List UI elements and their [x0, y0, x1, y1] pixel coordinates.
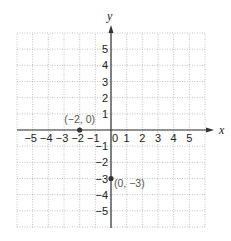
x-tick-label: 0 — [112, 132, 118, 144]
y-tick-label: 4 — [102, 59, 108, 71]
y-tick-label: −3 — [95, 173, 108, 185]
y-tick-label: −2 — [95, 156, 108, 168]
data-point — [108, 176, 113, 181]
y-tick-label: 2 — [102, 92, 108, 104]
x-tick-label: 1 — [124, 132, 130, 144]
x-axis-arrow-icon — [206, 128, 214, 133]
y-tick-label: 5 — [102, 43, 108, 55]
x-tick-label: 5 — [186, 132, 192, 144]
data-point — [77, 127, 82, 132]
x-tick-label: −2 — [71, 132, 84, 144]
y-tick-label: −4 — [95, 189, 108, 201]
coordinate-plane: xy −5−4−3−2−101234554321−1−2−3−4−5 (−2, … — [0, 0, 231, 241]
x-tick-label: 3 — [155, 132, 161, 144]
x-tick-label: 4 — [171, 132, 177, 144]
point-label: (0, −3) — [114, 177, 145, 189]
y-axis-arrow-icon — [109, 25, 114, 33]
x-tick-label: 2 — [139, 132, 145, 144]
point-label: (−2, 0) — [64, 113, 95, 125]
y-tick-label: −5 — [95, 205, 108, 217]
y-axis-label: y — [106, 9, 113, 23]
y-tick-label: 1 — [102, 108, 108, 120]
y-tick-label: 3 — [102, 76, 108, 88]
x-tick-label: −5 — [24, 132, 37, 144]
x-tick-label: −3 — [56, 132, 69, 144]
x-tick-label: −4 — [40, 132, 53, 144]
y-tick-label: −1 — [95, 140, 108, 152]
x-axis-label: x — [218, 123, 225, 137]
